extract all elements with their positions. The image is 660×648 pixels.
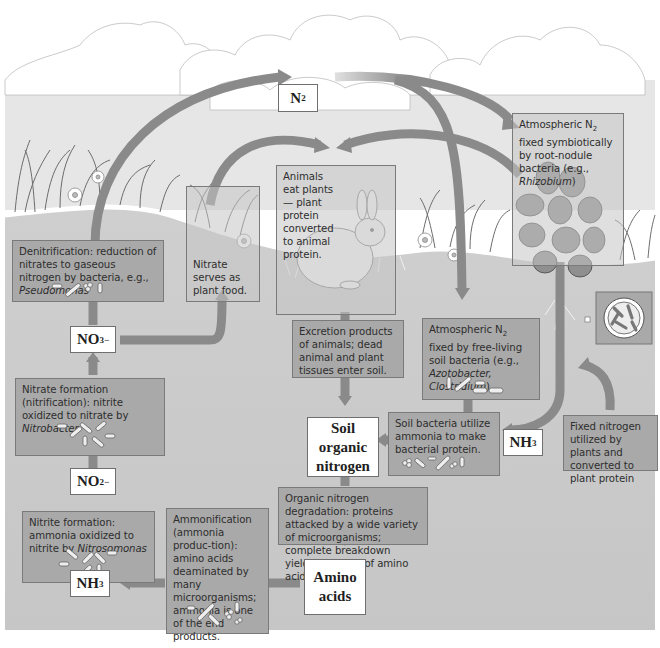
bacteria-icon	[445, 375, 505, 395]
bacteria-icon	[400, 453, 470, 473]
symbiotic-fixation-box: Atmospheric N2 fixed symbiotically by ro…	[512, 113, 624, 266]
bacteria-icon	[55, 420, 120, 450]
organic-degradation-box: Organic nitrogen degradation: proteins a…	[278, 487, 428, 545]
nitrate-no3-label: NO3−	[70, 326, 116, 353]
nitrite-no2-label: NO2−	[70, 468, 116, 495]
nitrogen-cycle-diagram: N2 Atmospheric N2 fixed symbiotically by…	[0, 0, 660, 648]
ammonia-nh3-right-label: NH3	[503, 429, 543, 456]
soil-organic-nitrogen-node: Soil organic nitrogen	[307, 417, 379, 477]
animals-eat-plants-box: Animals eat plants — plant protein conve…	[276, 165, 396, 315]
ammonia-nh3-left-label: NH3	[70, 570, 110, 597]
n2-label: N2	[278, 84, 318, 112]
bacteria-icon	[50, 280, 110, 302]
excretion-box: Excretion products of animals; dead anim…	[292, 320, 404, 378]
bacteria-icon	[185, 600, 255, 632]
amino-acids-node: Amino acids	[304, 559, 366, 615]
nitrate-plant-food-box: Nitrate serves as plant food.	[186, 186, 260, 302]
fixed-nitrogen-plants-box: Fixed nitrogen utilized by plants and co…	[563, 415, 658, 471]
